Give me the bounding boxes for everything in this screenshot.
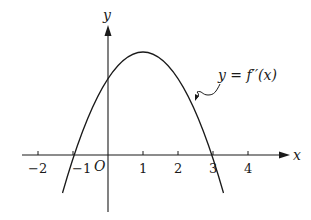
y-axis-label: y <box>102 7 112 23</box>
tick-label-neg1: −1 <box>72 161 91 176</box>
tick-label-neg2: −2 <box>28 161 47 176</box>
tick-label-1: 1 <box>139 161 147 176</box>
curve-label: y = f′′(x) <box>217 67 277 83</box>
tick-label-2: 2 <box>174 161 182 176</box>
x-axis-label: x <box>293 147 301 163</box>
annotation-pointer <box>196 84 220 99</box>
y-axis-arrow-icon <box>105 25 112 36</box>
tick-label-4: 4 <box>244 161 252 176</box>
x-axis-arrow-icon <box>279 152 290 159</box>
x-ticks <box>38 151 248 155</box>
origin-label: O <box>94 158 106 174</box>
chart-canvas: x y −2 −1 O 1 2 3 4 y = f′′(x) <box>0 0 311 220</box>
